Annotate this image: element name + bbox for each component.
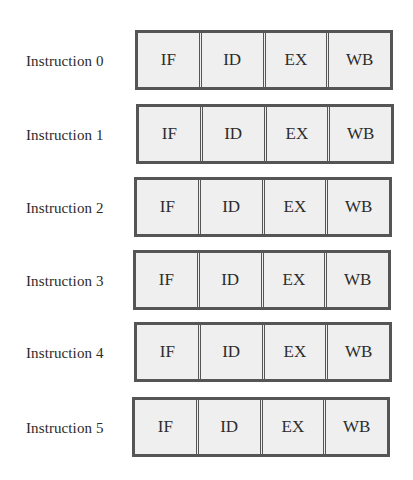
stage-ex: EX <box>264 107 328 161</box>
stage-if: IF <box>138 33 199 87</box>
instruction-row: Instruction 2 IF ID EX WB <box>0 177 413 239</box>
stage-id: ID <box>200 107 264 161</box>
stage-ex: EX <box>262 325 326 379</box>
instruction-row: Instruction 1 IF ID EX WB <box>0 104 413 166</box>
stage-wb: WB <box>327 107 391 161</box>
stage-group: IF ID EX WB <box>132 397 390 457</box>
stage-wb: WB <box>326 33 390 87</box>
stage-id: ID <box>197 253 261 307</box>
stage-group: IF ID EX WB <box>136 104 394 164</box>
instruction-row: Instruction 5 IF ID EX WB <box>0 397 413 459</box>
stage-group: IF ID EX WB <box>134 322 392 382</box>
stage-id: ID <box>198 325 262 379</box>
stage-ex: EX <box>260 400 324 454</box>
stage-id: ID <box>199 33 263 87</box>
stage-wb: WB <box>325 180 389 234</box>
instruction-row: Instruction 0 IF ID EX WB <box>0 30 413 92</box>
stage-ex: EX <box>261 253 325 307</box>
stage-if: IF <box>137 325 198 379</box>
stage-id: ID <box>198 180 262 234</box>
stage-group: IF ID EX WB <box>134 177 392 237</box>
instruction-label: Instruction 3 <box>26 250 104 312</box>
instruction-row: Instruction 3 IF ID EX WB <box>0 250 413 312</box>
instruction-label: Instruction 0 <box>26 30 104 92</box>
instruction-row: Instruction 4 IF ID EX WB <box>0 322 413 384</box>
stage-ex: EX <box>263 33 327 87</box>
instruction-label: Instruction 1 <box>26 104 104 166</box>
stage-if: IF <box>135 400 196 454</box>
stage-group: IF ID EX WB <box>135 30 393 90</box>
stage-id: ID <box>196 400 260 454</box>
stage-wb: WB <box>324 253 388 307</box>
stage-wb: WB <box>325 325 389 379</box>
stage-wb: WB <box>323 400 387 454</box>
instruction-label: Instruction 4 <box>26 322 104 384</box>
stage-if: IF <box>137 180 198 234</box>
stage-ex: EX <box>262 180 326 234</box>
instruction-label: Instruction 2 <box>26 177 104 239</box>
stage-group: IF ID EX WB <box>133 250 391 310</box>
stage-if: IF <box>139 107 200 161</box>
instruction-label: Instruction 5 <box>26 397 104 459</box>
stage-if: IF <box>136 253 197 307</box>
